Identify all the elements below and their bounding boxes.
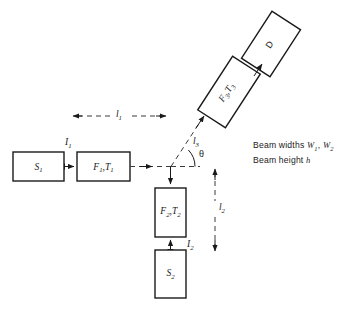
note-beam-height-symbol: h [306, 155, 311, 165]
note-beam-height-prefix: Beam height [253, 155, 303, 165]
figure-canvas: S1 F1,T1 I1 l1 θ l3 [0, 0, 346, 309]
note-beam-widths: Beam widths W1, W2 [253, 140, 334, 152]
theta-label: θ [199, 149, 204, 159]
note-beam-width-separator: , [318, 140, 321, 150]
beam-label-i1: I1 [64, 137, 72, 148]
theta-arc [188, 150, 195, 167]
note-beam-width-sub-2: 2 [330, 145, 333, 152]
beam-arrow-l3 [196, 116, 204, 128]
beam-label-i2: I2 [186, 239, 194, 250]
dimension-label-l3: l3 [193, 136, 200, 147]
note-beam-height: Beam height h [253, 155, 311, 165]
note-beam-widths-prefix: Beam widths [253, 140, 304, 150]
